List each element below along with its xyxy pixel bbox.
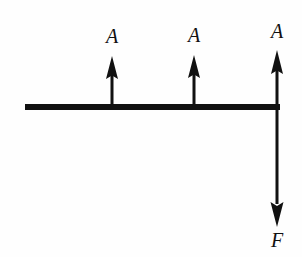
arrow-a-left-shaft: [111, 74, 114, 107]
arrow-f-down: [271, 107, 284, 227]
label-force-a-middle: A: [174, 25, 214, 45]
arrow-f-down-shaft: [276, 107, 279, 204]
arrow-a-middle-shaft: [193, 73, 196, 107]
label-force-a-right: A: [257, 21, 297, 41]
label-force-f-down: F: [257, 230, 297, 250]
label-force-a-left: A: [92, 26, 132, 46]
arrow-f-down-head: [271, 202, 284, 227]
arrow-a-right-shaft: [276, 69, 279, 107]
arrow-a-left: [106, 56, 118, 107]
free-body-diagram: A A A F: [0, 0, 302, 257]
arrow-a-middle: [188, 55, 200, 107]
arrow-a-right: [271, 50, 283, 107]
horizontal-bar: [25, 104, 280, 110]
arrow-a-right-head: [271, 50, 283, 74]
